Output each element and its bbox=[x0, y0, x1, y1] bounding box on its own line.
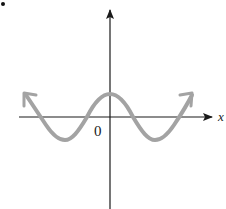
graph-figure: 0 x bbox=[0, 0, 226, 209]
x-axis-label: x bbox=[217, 109, 224, 124]
origin-label: 0 bbox=[94, 123, 102, 139]
bullet-dot bbox=[1, 2, 5, 6]
